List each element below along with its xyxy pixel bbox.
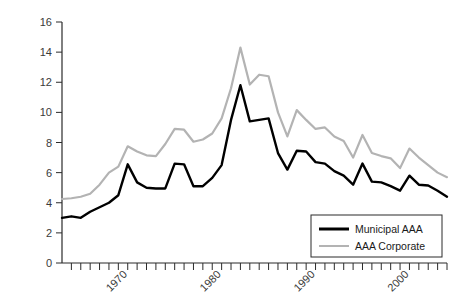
x-tick-label: 1990 [291, 268, 317, 294]
y-tick-label: 0 [46, 257, 52, 269]
y-tick-label: 10 [40, 106, 52, 118]
legend-label: AAA Corporate [355, 240, 425, 252]
series-line [62, 48, 447, 199]
y-tick-label: 6 [46, 167, 52, 179]
x-tick-group [71, 263, 447, 270]
series-group [62, 48, 447, 218]
x-tick-label-group: 1970198019902000 [103, 268, 411, 294]
y-tick-label: 4 [46, 197, 52, 209]
y-tick-label: 16 [40, 16, 52, 28]
x-axis: 1970198019902000 [62, 263, 447, 294]
y-tick-label: 2 [46, 227, 52, 239]
y-tick-label: 14 [40, 46, 52, 58]
y-tick-group: 0246810121416 [40, 16, 62, 269]
chart-container: 0246810121416 1970198019902000 Municipal… [0, 0, 461, 306]
y-tick-label: 8 [46, 137, 52, 149]
line-chart: 0246810121416 1970198019902000 Municipal… [0, 0, 461, 306]
legend-label: Municipal AAA [355, 223, 423, 235]
x-tick-label: 2000 [385, 268, 411, 294]
y-tick-label: 12 [40, 76, 52, 88]
y-axis: 0246810121416 [40, 16, 62, 269]
x-tick-label: 1980 [197, 268, 223, 294]
chart-legend: Municipal AAAAAA Corporate [311, 215, 442, 257]
series-line [62, 85, 447, 218]
x-tick-label: 1970 [103, 268, 129, 294]
